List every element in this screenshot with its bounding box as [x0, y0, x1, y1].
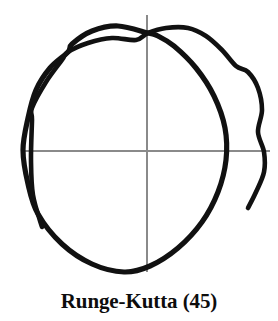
- plot-area: [0, 0, 278, 288]
- trajectory-plot: [0, 0, 278, 288]
- orbit-inner-loop-path: [23, 26, 227, 272]
- runge-kutta-figure: Runge-Kutta (45): [0, 0, 278, 321]
- figure-caption: Runge-Kutta (45): [0, 286, 278, 316]
- orbit-outer-arc-path: [31, 27, 265, 227]
